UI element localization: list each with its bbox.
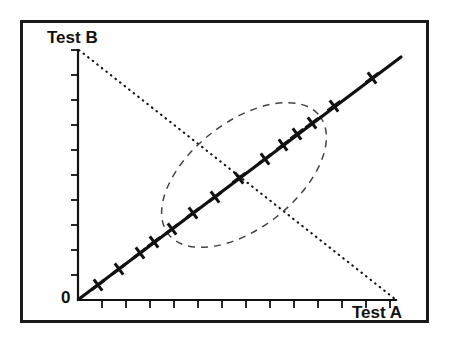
x-axis-ticks — [102, 300, 390, 308]
y-axis-title: Test B — [47, 28, 98, 48]
origin-label: 0 — [61, 288, 70, 308]
x-axis-title: Test A — [352, 303, 402, 323]
figure-canvas: Test B Test A 0 — [0, 0, 452, 347]
